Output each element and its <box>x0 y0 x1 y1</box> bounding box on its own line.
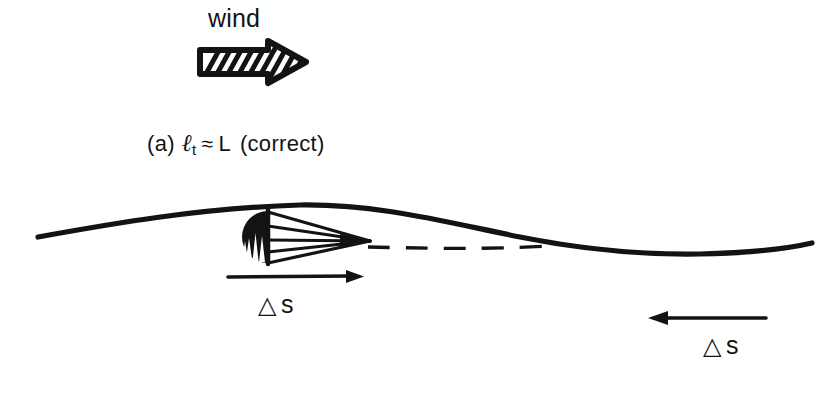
ds-left-arrow-icon <box>228 270 364 283</box>
delta-triangle-left: △ <box>258 291 281 318</box>
figure-canvas: wind (a) ℓ t ≈ L (correct) <box>0 0 839 395</box>
ds-right-variable: s <box>726 331 740 359</box>
ds-left-variable: s <box>281 290 295 318</box>
ds-right-label: △s <box>703 333 740 358</box>
ds-left-label: △s <box>258 292 295 317</box>
delta-triangle-right: △ <box>703 332 726 359</box>
ds-right-arrow-icon <box>648 311 766 325</box>
